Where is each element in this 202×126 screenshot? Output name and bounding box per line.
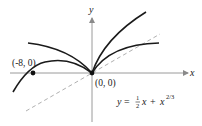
x-axis-label: x	[189, 67, 195, 78]
eq-term2-exp: 2/3	[166, 93, 174, 100]
y-axis-label: y	[88, 4, 94, 15]
eq-term2-base: x	[159, 96, 165, 107]
chart: x y (-8, 0) (0, 0) y = 1 2 x + x 2/3	[0, 0, 202, 126]
point-origin	[90, 71, 95, 76]
svg-text:y =: y =	[116, 96, 130, 107]
eq-plus: +	[150, 96, 156, 107]
eq-frac-num: 1	[136, 94, 139, 101]
series-curve-x23-left	[28, 43, 92, 73]
point-label-origin: (0, 0)	[95, 78, 116, 89]
series-curve-main-right	[92, 43, 159, 73]
point-label-neg8: (-8, 0)	[12, 58, 36, 69]
equation-label: y = 1 2 x + x 2/3	[116, 93, 174, 109]
eq-term1: x	[141, 96, 147, 107]
eq-frac-den: 2	[136, 102, 139, 109]
point-neg8	[31, 71, 36, 76]
